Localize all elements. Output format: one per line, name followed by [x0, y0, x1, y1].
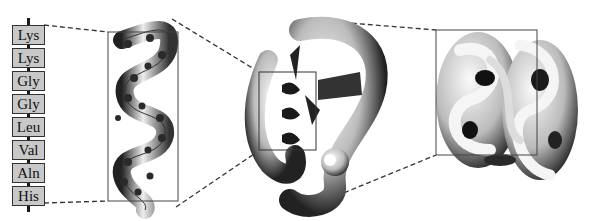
quaternary-structure-illustration	[436, 32, 578, 180]
protein-structure-diagram: Lys Lys Gly Gly Leu Val Aln His	[0, 0, 594, 221]
structure-illustrations	[0, 0, 594, 221]
alpha-helix-illustration	[115, 30, 169, 210]
